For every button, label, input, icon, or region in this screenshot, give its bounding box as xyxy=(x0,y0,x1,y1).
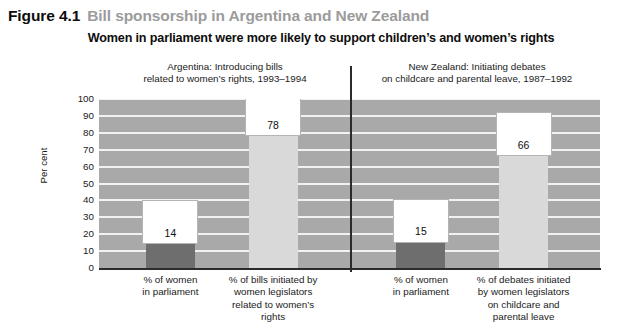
panel-caption-line2: related to women’s rights, 1993–1994 xyxy=(99,73,351,85)
y-axis-tick-labels: 1009080706050403020100 xyxy=(58,94,94,269)
y-tick-label: 100 xyxy=(58,94,94,104)
category-label-line: related to women’s xyxy=(210,299,336,311)
figure-header: Figure 4.1Bill sponsorship in Argentina … xyxy=(8,7,429,25)
panel-caption-line2: on childcare and parental leave, 1987–19… xyxy=(351,73,603,85)
category-label: % of bills initiated bywomen legislators… xyxy=(210,274,336,324)
bar-argentina-0 xyxy=(146,244,195,268)
y-tick-label: 70 xyxy=(58,145,94,155)
panel-caption-argentina: Argentina: Introducing bills related to … xyxy=(99,61,351,86)
y-tick-label: 20 xyxy=(58,229,94,239)
y-tick-label: 90 xyxy=(58,111,94,121)
panel-caption-line1: New Zealand: Initiating debates xyxy=(351,61,603,73)
category-label-line: on childcare and xyxy=(461,299,587,311)
category-label-line: women legislators xyxy=(210,286,336,298)
y-tick-label: 40 xyxy=(58,195,94,205)
y-tick-label: 30 xyxy=(58,212,94,222)
y-tick-label: 10 xyxy=(58,246,94,256)
figure-number: Figure 4.1 xyxy=(8,7,80,24)
bar-new-zealand-1 xyxy=(499,156,548,268)
bar-value-label: 14 xyxy=(142,200,198,244)
category-label-line: by women legislators xyxy=(461,286,587,298)
category-label-line: rights xyxy=(210,311,336,323)
chart-subtitle: Women in parliament were more likely to … xyxy=(0,31,624,45)
y-tick-label: 80 xyxy=(58,128,94,138)
y-tick-label: 60 xyxy=(58,162,94,172)
bar-argentina-1 xyxy=(249,136,298,268)
bar-value-label: 15 xyxy=(393,199,449,243)
bar-value-label: 78 xyxy=(245,99,301,136)
figure-title: Bill sponsorship in Argentina and New Ze… xyxy=(87,7,429,24)
panel-divider-line xyxy=(350,66,352,272)
y-tick-label: 0 xyxy=(58,263,94,273)
y-axis-title: Per cent xyxy=(38,121,49,211)
y-tick-label: 50 xyxy=(58,179,94,189)
category-label-line: % of bills initiated by xyxy=(210,274,336,286)
bar-value-label: 66 xyxy=(496,112,552,156)
panel-caption-line1: Argentina: Introducing bills xyxy=(99,61,351,73)
category-label: % of debates initiatedby women legislato… xyxy=(461,274,587,324)
category-label-line: % of debates initiated xyxy=(461,274,587,286)
panel-caption-new-zealand: New Zealand: Initiating debates on child… xyxy=(351,61,603,86)
bar-new-zealand-0 xyxy=(396,243,445,268)
category-label-line: parental leave xyxy=(461,311,587,323)
